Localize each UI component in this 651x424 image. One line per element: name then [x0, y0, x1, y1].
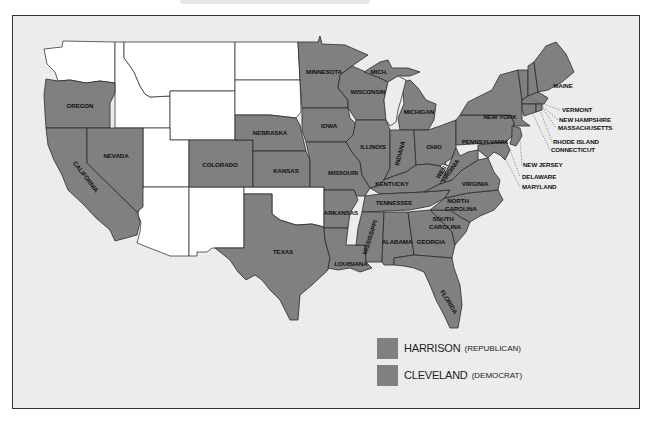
- state-wyoming[interactable]: [170, 91, 235, 140]
- label-colorado: COLORADO: [202, 161, 238, 168]
- legend-party-cleveland: (DEMOCRAT): [472, 371, 523, 380]
- legend-name-cleveland: CLEVELAND: [404, 369, 468, 381]
- legend-item-harrison: HARRISON (REPUBLICAN): [377, 337, 522, 359]
- state-connecticut[interactable]: [522, 104, 536, 116]
- legend-item-cleveland: CLEVELAND (DEMOCRAT): [377, 364, 522, 386]
- label-mich: MICH.: [370, 68, 387, 75]
- label-pennsylvania: PENNSYLVANIA: [462, 138, 509, 145]
- leader-new-jersey: [520, 140, 522, 165]
- label-ohio: OHIO: [426, 143, 442, 150]
- legend-swatch-harrison: [377, 338, 398, 359]
- label-south-carolina-1: SOUTH: [432, 215, 454, 222]
- label-missouri: MISSOURI: [328, 169, 358, 176]
- label-nebraska: NEBRASKA: [253, 129, 288, 136]
- legend-swatch-cleveland: [377, 365, 398, 386]
- label-wisconsin: WISCONSIN: [351, 88, 386, 95]
- leader-maryland: [504, 156, 520, 187]
- label-rhode-island: RHODE ISLAND: [553, 138, 600, 145]
- label-vermont: VERMONT: [562, 106, 593, 113]
- label-maryland: MARYLAND: [522, 183, 557, 190]
- state-florida[interactable]: [394, 255, 462, 328]
- state-washington[interactable]: [44, 41, 115, 83]
- label-minnesota: MINNESOTA: [306, 68, 342, 75]
- label-south-carolina-2: CAROLINA: [429, 223, 461, 230]
- state-south-dakota[interactable]: [235, 80, 301, 118]
- label-connecticut: CONNECTICUT: [551, 146, 595, 153]
- label-louisiana: LOUISIANA: [334, 260, 368, 267]
- legend-name-harrison: HARRISON: [404, 342, 460, 354]
- label-north-carolina-1: NORTH: [447, 197, 469, 204]
- label-texas: TEXAS: [273, 248, 293, 255]
- label-arkansas: ARKANSAS: [324, 209, 358, 216]
- label-virginia: VIRGINIA: [462, 180, 489, 187]
- label-alabama: ALABAMA: [382, 238, 413, 245]
- label-oregon: OREGON: [67, 102, 95, 109]
- label-new-york: NEW YORK: [483, 113, 517, 120]
- state-north-dakota[interactable]: [235, 42, 300, 80]
- label-north-carolina-2: CAROLINA: [445, 205, 477, 212]
- label-illinois: ILLINOIS: [360, 143, 385, 150]
- label-tennessee: TENNESSEE: [376, 199, 413, 206]
- label-nevada: NEVADA: [103, 152, 129, 159]
- map-legend: HARRISON (REPUBLICAN) CLEVELAND (DEMOCRA…: [377, 337, 522, 391]
- leader-rhode-island: [540, 110, 552, 142]
- label-maine: MAINE: [553, 82, 572, 89]
- state-new-mexico[interactable]: [189, 187, 244, 256]
- legend-party-harrison: (REPUBLICAN): [464, 344, 520, 353]
- label-new-hampshire: NEW HAMPSHIRE: [559, 116, 611, 123]
- label-iowa: IOWA: [321, 122, 338, 129]
- label-michigan: MICHIGAN: [404, 108, 435, 115]
- label-new-jersey: NEW JERSEY: [523, 161, 564, 168]
- label-kansas: KANSAS: [273, 167, 299, 174]
- state-rhode-island[interactable]: [536, 104, 542, 112]
- state-arizona[interactable]: [137, 187, 189, 256]
- label-delaware: DELAWARE: [522, 173, 556, 180]
- leader-connecticut: [532, 112, 550, 150]
- label-georgia: GEORGIA: [417, 238, 446, 245]
- us-election-map: OREGON NEVADA CALIFORNIA COLORADO NEBRAS…: [0, 0, 651, 424]
- leader-delaware: [510, 150, 520, 177]
- label-massachusetts: MASSACHUSETTS: [558, 124, 612, 131]
- label-kentucky: KENTUCKY: [375, 180, 410, 187]
